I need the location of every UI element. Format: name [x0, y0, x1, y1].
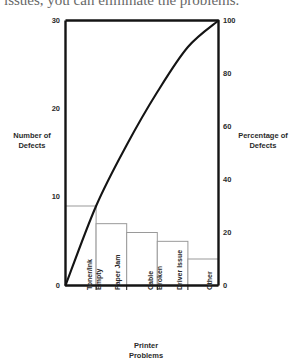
- category-label-3: Driver Issue: [176, 250, 185, 290]
- right-tick-label-20: 20: [223, 228, 247, 237]
- left-axis-title: Number ofDefects: [4, 131, 60, 150]
- right-axis-title: Percentage ofDefects: [234, 131, 292, 150]
- left-tick-label-30: 30: [38, 16, 60, 25]
- right-tick-label-0: 0: [223, 281, 247, 290]
- category-label-0: Toner/InkEmpty: [86, 259, 103, 290]
- chart-plot-area: [0, 0, 294, 362]
- right-tick-label-80: 80: [223, 69, 247, 78]
- category-label-1: Paper Jam: [114, 255, 123, 290]
- left-tick-label-0: 0: [38, 281, 60, 290]
- category-label-4: Other: [206, 271, 215, 290]
- right-tick-label-40: 40: [223, 175, 247, 184]
- right-tick-label-100: 100: [223, 16, 247, 25]
- left-tick-label-20: 20: [38, 104, 60, 113]
- category-label-2: CableBroken: [147, 266, 164, 290]
- right-tick-label-60: 60: [223, 122, 247, 131]
- pareto-chart: 0102030 020406080100 Toner/InkEmptyPaper…: [0, 0, 294, 362]
- x-axis-title: PrinterProblems: [96, 341, 196, 360]
- left-tick-label-10: 10: [38, 192, 60, 201]
